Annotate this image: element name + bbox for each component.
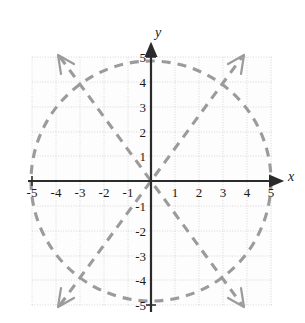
y-tick-label--2: -2 bbox=[124, 225, 146, 238]
x-tick-label-2: 2 bbox=[190, 186, 208, 199]
x-tick-label-5: 5 bbox=[262, 186, 280, 199]
coordinate-plane-svg bbox=[0, 0, 305, 323]
y-tick-label-4: 4 bbox=[130, 76, 146, 89]
x-tick-label-1: 1 bbox=[166, 186, 184, 199]
x-axis-label: x bbox=[288, 170, 294, 184]
y-tick-label-3: 3 bbox=[130, 101, 146, 114]
y-tick-label--4: -4 bbox=[124, 274, 146, 287]
y-tick-label-5: 5 bbox=[130, 51, 146, 64]
graph-figure: -5 -4 -3 -2 -1 1 2 3 4 5 5 4 3 2 1 -1 -2… bbox=[0, 0, 305, 323]
x-tick-label-3: 3 bbox=[214, 186, 232, 199]
x-tick-label--3: -3 bbox=[71, 186, 89, 199]
x-tick-label-4: 4 bbox=[238, 186, 256, 199]
x-tick-label--1: -1 bbox=[119, 186, 137, 199]
y-tick-label-1: 1 bbox=[130, 150, 146, 163]
y-axis-label: y bbox=[155, 26, 161, 40]
x-tick-label--4: -4 bbox=[47, 186, 65, 199]
y-tick-label--1: -1 bbox=[124, 200, 146, 213]
y-tick-label-2: 2 bbox=[130, 126, 146, 139]
x-tick-label--5: -5 bbox=[23, 186, 41, 199]
x-tick-label--2: -2 bbox=[95, 186, 113, 199]
y-tick-label--3: -3 bbox=[124, 250, 146, 263]
y-tick-label--5: -5 bbox=[124, 299, 146, 312]
